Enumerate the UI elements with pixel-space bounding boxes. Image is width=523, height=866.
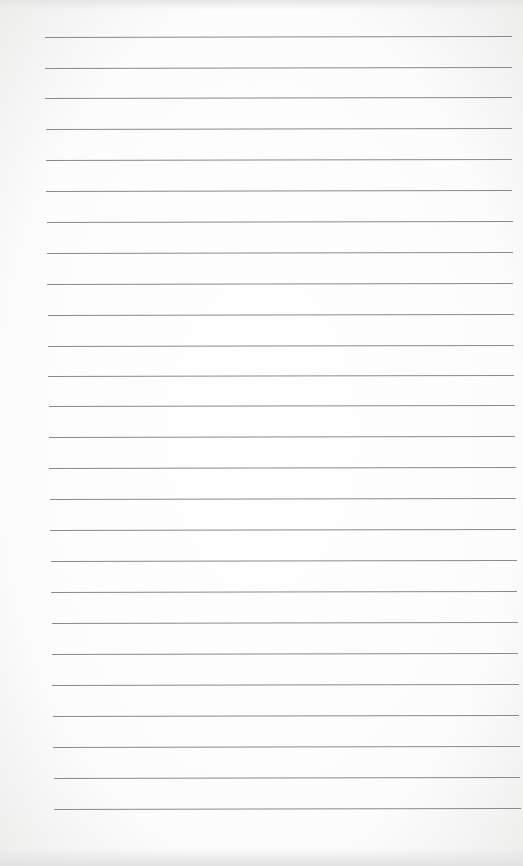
page-top-shadow: [0, 0, 523, 10]
lined-paper-page: [0, 0, 523, 866]
ruled-line: [49, 467, 516, 469]
ruled-line: [48, 375, 514, 377]
ruled-line: [46, 190, 512, 192]
ruled-line: [52, 622, 518, 624]
ruled-line: [50, 498, 516, 500]
ruled-line: [52, 653, 518, 655]
ruled-line: [54, 777, 520, 779]
ruled-line: [47, 221, 513, 223]
ruled-line: [45, 97, 512, 99]
ruled-line: [51, 591, 517, 593]
ruled-line: [49, 436, 515, 438]
ruled-line: [48, 314, 514, 316]
ruled-line: [47, 252, 513, 254]
ruled-line: [48, 345, 514, 347]
ruled-line: [50, 529, 516, 531]
ruled-line: [47, 283, 513, 285]
ruled-line: [49, 405, 515, 407]
ruled-line: [53, 746, 520, 748]
page-bottom-shadow: [0, 848, 523, 866]
ruled-line: [46, 159, 512, 161]
ruled-line: [54, 808, 521, 810]
ruled-line: [52, 684, 519, 686]
ruled-line: [45, 36, 512, 38]
ruled-line: [53, 715, 519, 717]
ruled-line: [46, 128, 512, 130]
ruled-line: [51, 560, 517, 562]
ruled-line: [45, 67, 512, 69]
